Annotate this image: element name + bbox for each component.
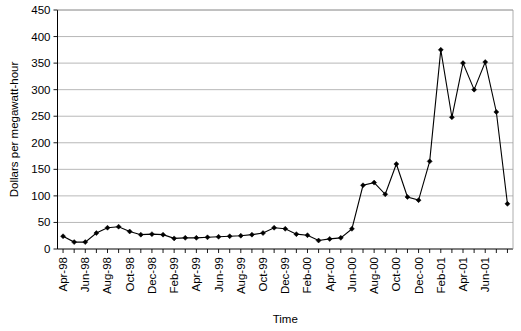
- x-axis-tick-label: Oct-98: [124, 257, 136, 292]
- plot-frame: [58, 10, 514, 249]
- data-point-marker: [216, 234, 221, 239]
- x-axis-tick-label: Apr-01: [457, 257, 469, 292]
- x-axis-title: Time: [273, 313, 298, 325]
- x-axis-tick-label: Jun-00: [346, 257, 358, 292]
- x-axis-tick-label: Aug-99: [235, 257, 247, 294]
- x-axis-tick-label: Aug-98: [101, 257, 113, 294]
- data-point-marker: [249, 232, 254, 237]
- y-axis-tick-label: 300: [31, 84, 50, 96]
- y-axis-tick-label: 200: [31, 137, 50, 149]
- data-point-markers: [61, 47, 510, 244]
- data-point-marker: [149, 232, 154, 237]
- y-axis-tick-labels: 050100150200250300350400450: [31, 4, 50, 255]
- data-point-marker: [394, 162, 399, 167]
- x-axis-tick-label: Feb-00: [301, 257, 313, 293]
- data-point-marker: [449, 115, 454, 120]
- y-axis-tick-label: 100: [31, 190, 50, 202]
- data-point-marker: [461, 61, 466, 66]
- line-chart: 050100150200250300350400450Apr-98Jun-98A…: [0, 0, 521, 331]
- data-point-marker: [172, 236, 177, 241]
- x-axis-tick-label: Jun-01: [479, 257, 491, 292]
- data-point-marker: [505, 201, 510, 206]
- y-axis-title: Dollars per megawatt-hour: [8, 62, 20, 198]
- data-point-marker: [494, 109, 499, 114]
- y-gridlines: [54, 10, 514, 249]
- y-axis-tick-label: 350: [31, 57, 50, 69]
- y-axis-tick-label: 150: [31, 163, 50, 175]
- data-point-marker: [405, 194, 410, 199]
- data-point-marker: [294, 232, 299, 237]
- data-point-marker: [416, 198, 421, 203]
- data-point-marker: [261, 231, 266, 236]
- data-point-marker: [483, 60, 488, 65]
- data-point-marker: [127, 229, 132, 234]
- data-point-marker: [238, 233, 243, 238]
- data-point-marker: [438, 47, 443, 52]
- x-axis-tick-label: Jun-98: [79, 257, 91, 292]
- y-axis-tick-label: 400: [31, 31, 50, 43]
- data-point-marker: [138, 232, 143, 237]
- x-axis-tick-label: Jun-99: [213, 257, 225, 292]
- data-point-marker: [283, 226, 288, 231]
- data-point-marker: [161, 232, 166, 237]
- x-axis-tick-label: Dec-98: [146, 257, 158, 294]
- data-point-marker: [472, 87, 477, 92]
- data-point-marker: [305, 233, 310, 238]
- data-point-marker: [194, 235, 199, 240]
- y-axis-tick-label: 250: [31, 110, 50, 122]
- data-point-marker: [327, 236, 332, 241]
- x-axis-tick-labels: Apr-98Jun-98Aug-98Oct-98Dec-98Feb-99Apr-…: [57, 257, 491, 294]
- chart-container: 050100150200250300350400450Apr-98Jun-98A…: [0, 0, 521, 331]
- data-point-marker: [427, 159, 432, 164]
- x-axis-tick-label: Apr-99: [190, 257, 202, 292]
- data-point-marker: [61, 234, 66, 239]
- x-axis-tick-label: Dec-00: [413, 257, 425, 294]
- x-axis-tick-label: Aug-00: [368, 257, 380, 294]
- x-axis-tick-label: Apr-00: [324, 257, 336, 292]
- x-tick-marks: [63, 249, 507, 253]
- data-point-marker: [116, 224, 121, 229]
- data-point-marker: [72, 240, 77, 245]
- x-axis-tick-label: Oct-99: [257, 257, 269, 292]
- y-axis-tick-label: 50: [38, 216, 51, 228]
- y-axis-tick-label: 0: [44, 243, 50, 255]
- data-point-marker: [183, 235, 188, 240]
- data-point-marker: [227, 234, 232, 239]
- data-point-marker: [272, 225, 277, 230]
- x-axis-tick-label: Dec-99: [279, 257, 291, 294]
- data-point-marker: [361, 183, 366, 188]
- data-series-line: [63, 50, 507, 242]
- x-axis-tick-label: Feb-01: [435, 257, 447, 293]
- data-point-marker: [205, 235, 210, 240]
- x-axis-tick-label: Apr-98: [57, 257, 69, 292]
- x-axis-tick-label: Feb-99: [168, 257, 180, 293]
- data-point-marker: [105, 225, 110, 230]
- data-point-marker: [316, 238, 321, 243]
- y-axis-tick-label: 450: [31, 4, 50, 16]
- x-axis-tick-label: Oct-00: [390, 257, 402, 292]
